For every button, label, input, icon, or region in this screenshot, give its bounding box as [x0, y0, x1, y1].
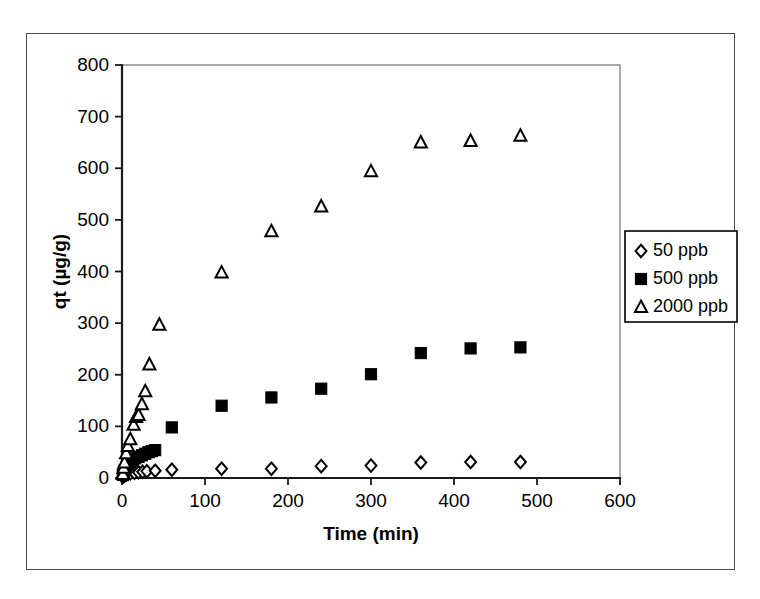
y-axis-tick-label: 800 — [77, 54, 109, 75]
data-point — [365, 165, 377, 176]
data-point — [150, 465, 161, 477]
data-point — [216, 462, 227, 474]
data-point — [136, 398, 148, 409]
plot-area-border — [122, 65, 620, 478]
data-point — [415, 456, 426, 468]
data-point — [216, 400, 227, 411]
y-axis-tick-label: 400 — [77, 261, 109, 282]
data-point — [316, 460, 327, 472]
data-point — [124, 433, 136, 444]
x-axis-tick-label: 600 — [604, 490, 636, 511]
legend-label: 2000 ppb — [653, 296, 728, 316]
x-axis-tick-label: 0 — [117, 490, 128, 511]
data-point — [166, 464, 177, 476]
data-point — [266, 392, 277, 403]
x-axis-title: Time (min) — [323, 523, 419, 544]
data-point — [366, 459, 377, 471]
data-point — [365, 369, 376, 380]
x-axis-tick-label: 400 — [438, 490, 470, 511]
data-point — [143, 358, 155, 369]
data-point — [265, 225, 277, 236]
x-axis-tick-label: 100 — [189, 490, 221, 511]
data-point — [216, 266, 228, 277]
legend-label: 50 ppb — [653, 240, 708, 260]
data-point — [515, 456, 526, 468]
y-axis-tick-label: 500 — [77, 209, 109, 230]
data-point — [166, 422, 177, 433]
data-point — [514, 129, 526, 140]
data-point — [316, 383, 327, 394]
data-point — [465, 343, 476, 354]
chart-axes — [122, 65, 620, 478]
x-axis-tick-label: 500 — [521, 490, 553, 511]
data-point — [150, 445, 161, 456]
scatter-chart: 0100200300400500600700800010020030040050… — [0, 0, 760, 599]
x-axis-tick-label: 200 — [272, 490, 304, 511]
series-2000-ppb — [117, 129, 527, 479]
legend-label: 500 ppb — [653, 268, 718, 288]
y-axis-tick-label: 300 — [77, 312, 109, 333]
legend-marker — [635, 273, 646, 284]
data-point — [465, 456, 476, 468]
figure-root: 0100200300400500600700800010020030040050… — [0, 0, 760, 599]
y-axis-tick-label: 200 — [77, 364, 109, 385]
y-axis-tick-label: 700 — [77, 106, 109, 127]
y-axis-tick-label: 0 — [98, 467, 109, 488]
data-point — [266, 462, 277, 474]
data-point — [515, 342, 526, 353]
data-point — [415, 347, 426, 358]
data-point — [415, 136, 427, 147]
data-point — [465, 134, 477, 145]
y-axis-tick-label: 100 — [77, 415, 109, 436]
y-axis-tick-label: 600 — [77, 157, 109, 178]
x-axis-tick-label: 300 — [355, 490, 387, 511]
data-point — [139, 385, 151, 396]
chart-legend: 50 ppb500 ppb2000 ppb — [625, 231, 737, 322]
y-axis-title: qt (µg/g) — [49, 234, 70, 309]
data-point — [153, 318, 165, 329]
data-point — [315, 200, 327, 211]
